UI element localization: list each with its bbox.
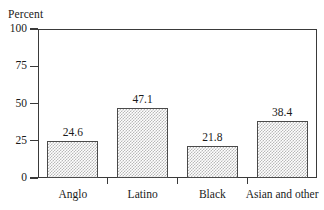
y-axis-tick-label: 50	[16, 98, 28, 110]
bar	[187, 146, 238, 178]
y-axis-tick-label: 0	[21, 172, 27, 184]
y-axis-tick-label: 100	[10, 23, 27, 35]
y-axis-title: Percent	[8, 8, 43, 21]
x-axis-category-label: Asian and other	[239, 188, 324, 201]
bar	[117, 108, 168, 178]
y-axis-tick	[30, 177, 38, 178]
bar-value-label: 24.6	[43, 126, 103, 138]
x-axis-tick	[177, 177, 178, 184]
bar	[257, 121, 308, 178]
bar	[47, 141, 98, 178]
y-axis-tick-label: 25	[16, 135, 28, 147]
y-axis-tick	[30, 103, 38, 104]
bar-value-label: 21.8	[182, 131, 242, 143]
y-axis-tick	[30, 66, 38, 67]
y-axis-tick	[30, 28, 38, 29]
x-axis-tick	[107, 177, 108, 184]
x-axis-tick	[247, 177, 248, 184]
y-axis-tick-label: 75	[16, 60, 28, 72]
y-axis-tick	[30, 140, 38, 141]
bar-chart-figure: Percent 0255075100 24.647.121.838.4 Angl…	[0, 0, 324, 210]
bar-value-label: 38.4	[252, 106, 312, 118]
bar-value-label: 47.1	[113, 93, 173, 105]
